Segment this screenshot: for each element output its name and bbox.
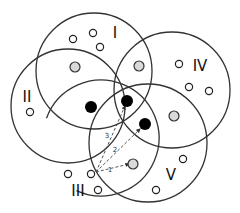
gray-node [128,159,138,169]
region-label-v: V [166,168,176,183]
gray-node [70,62,80,72]
region-circle-iii [46,80,159,196]
open-node [89,29,96,36]
gray-node [169,111,179,121]
open-node [64,170,71,177]
black-node [85,101,97,113]
open-node [69,35,76,42]
black-node [121,95,133,107]
black-node [139,118,151,130]
arrow-label-2: 2 [113,147,117,154]
open-node [205,87,212,94]
arrow-1 [96,164,129,172]
region-circles [11,13,230,202]
open-node [87,170,94,177]
open-node [175,60,182,67]
arrow-label-1: 1 [108,167,112,174]
open-node [94,186,101,193]
open-node [96,43,103,50]
region-label-iv: IV [193,59,208,74]
region-label-iii: III [71,184,84,199]
open-node [179,155,186,162]
diagram-graphics [0,0,240,213]
arrow-label-3: 3 [105,133,109,140]
open-node [152,186,159,193]
arrow-3 [96,106,125,172]
overlapping-regions-diagram: I II III IV V 1 2 3 [0,0,240,213]
gray-node [134,61,144,71]
region-label-ii: II [23,90,32,105]
open-node [26,108,33,115]
nodes [26,29,212,193]
open-node [185,83,192,90]
region-circle-ii [11,49,125,163]
region-label-i: I [113,26,117,41]
